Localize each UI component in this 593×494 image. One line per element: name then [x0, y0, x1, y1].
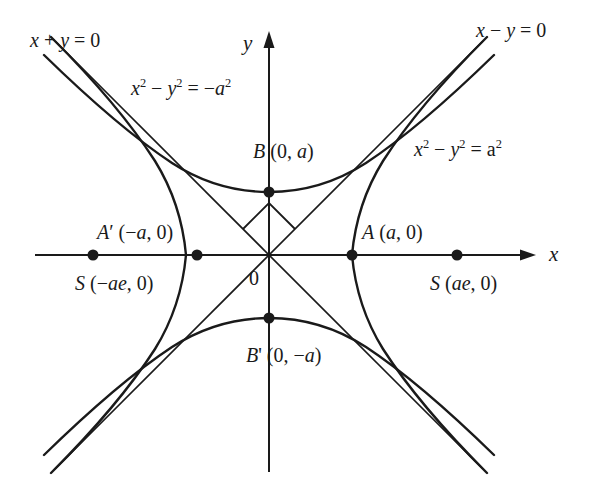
hyperbola-figure: x + y = 0 x − y = 0 x2 − y2 = −a2 x2 − y…	[0, 0, 593, 494]
vertex-b-label: B (0, a)	[253, 141, 314, 161]
asymptote-left-label: x + y = 0	[30, 30, 100, 50]
main-equation-label: x2 − y2 = a2	[414, 139, 502, 159]
y-axis-label: y	[243, 33, 252, 54]
vertex-a-prime-label: A′ (−a, 0)	[97, 222, 173, 242]
x-axis-label: x	[549, 244, 558, 265]
point-vertex-a	[347, 250, 358, 261]
point-vertex-b	[264, 187, 275, 198]
vertex-a-label: A (a, 0)	[362, 222, 423, 242]
conjugate-equation-label: x2 − y2 = −a2	[131, 78, 231, 98]
y-axis-arrowhead	[264, 31, 275, 48]
vertex-b-prime-label: B' (0, −a)	[246, 345, 321, 365]
point-vertex-a-prime	[192, 250, 203, 261]
x-axis-arrowhead	[520, 250, 536, 261]
point-vertex-b-prime	[264, 313, 275, 324]
figure-canvas	[0, 0, 593, 494]
origin-label: 0	[249, 268, 259, 288]
focus-left-label: S (−ae, 0)	[75, 273, 154, 293]
asymptote-right-label: x − y = 0	[476, 20, 546, 40]
point-focus-right	[452, 250, 463, 261]
focus-right-label: S (ae, 0)	[430, 273, 497, 293]
point-focus-left	[88, 250, 99, 261]
